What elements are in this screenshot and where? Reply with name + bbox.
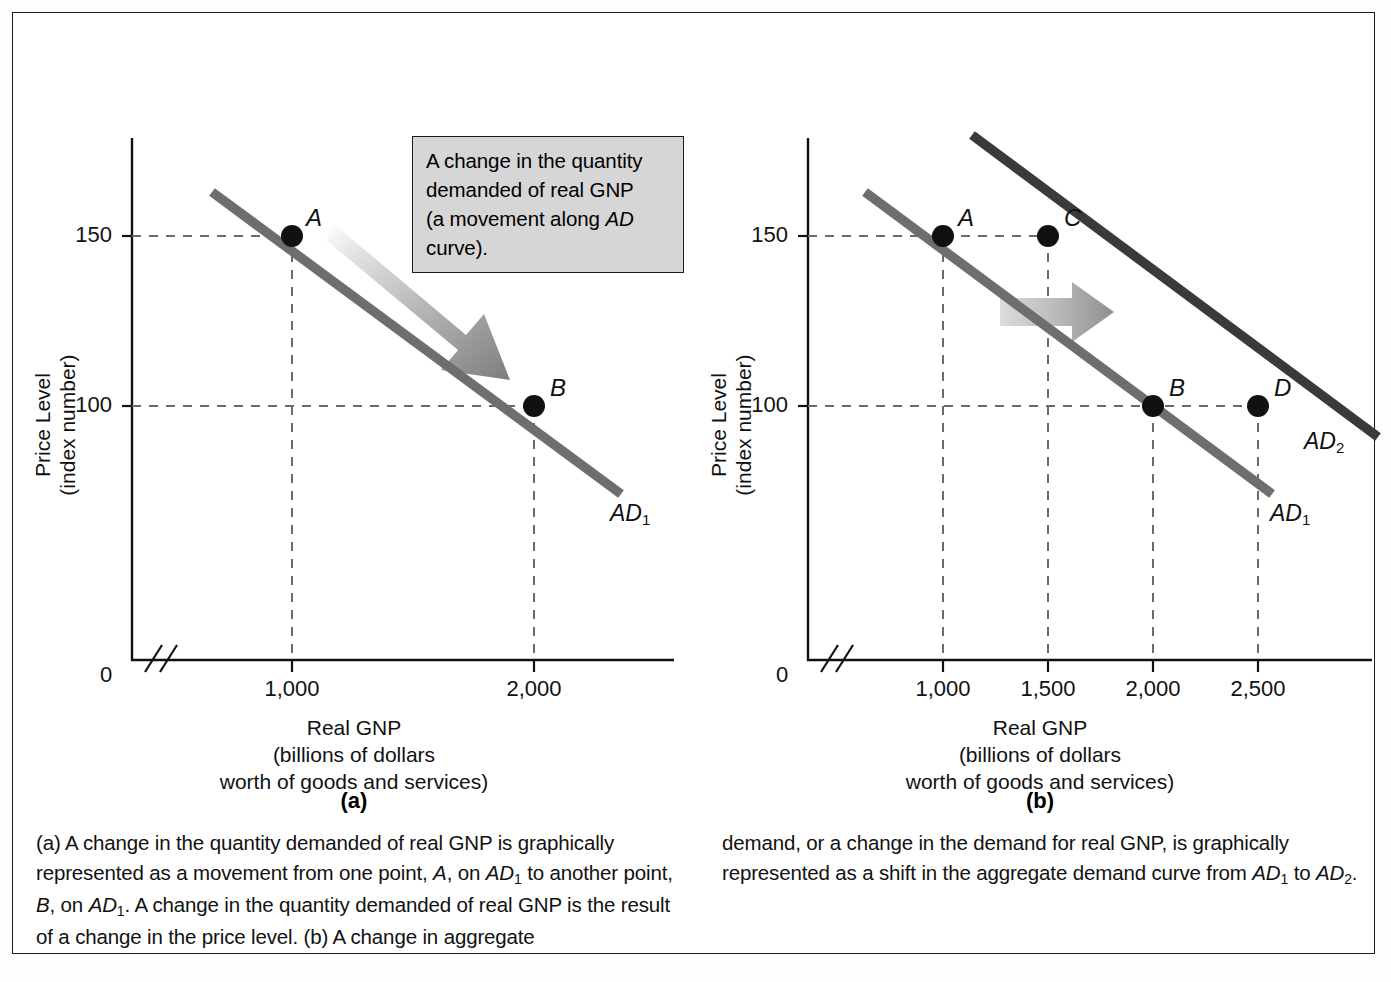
panel-b-letter: (b) bbox=[730, 788, 1350, 814]
panel-b-origin-label: 0 bbox=[776, 662, 788, 688]
panel-b-curve-ad1 bbox=[865, 192, 1272, 494]
figure-root: 150 100 0 1,000 2,000 Price Level (index… bbox=[0, 0, 1391, 982]
caption-b-em2: AD bbox=[1316, 861, 1344, 884]
panel-b-curve-label-ad2-sub: 2 bbox=[1336, 439, 1344, 456]
panel-b-point-label-B: B bbox=[1169, 374, 1185, 402]
panel-a-callout: A change in the quantity demanded of rea… bbox=[412, 136, 684, 273]
caption-b-em1: AD bbox=[1252, 861, 1280, 884]
panel-b: 150 100 0 1,000 1,500 2,000 2,500 Price … bbox=[700, 0, 1376, 810]
panel-a-y-title-line1: Price Level bbox=[31, 373, 54, 477]
panel-b-point-B bbox=[1142, 395, 1164, 417]
panel-a-callout-line4: curve). bbox=[426, 236, 488, 259]
panel-a-xlabel-2000: 2,000 bbox=[474, 676, 594, 702]
panel-b-curve-label-ad1: AD1 bbox=[1270, 500, 1310, 527]
caption-b-sub2: 2 bbox=[1344, 871, 1352, 887]
caption-a-s2: , on bbox=[447, 861, 486, 884]
panel-b-ylabel-150: 150 bbox=[726, 222, 788, 248]
panel-a-callout-line1: A change in the quantity bbox=[426, 149, 642, 172]
panel-a-guides bbox=[132, 236, 534, 660]
panel-a-point-B bbox=[523, 395, 545, 417]
caption-a-s4: , on bbox=[50, 893, 89, 916]
caption-a-s5: . A change in the quantity demanded of r… bbox=[36, 893, 670, 948]
panel-a-curve-label-ad1: AD1 bbox=[610, 500, 650, 527]
panel-b-xlabel-2000: 2,000 bbox=[1093, 676, 1213, 702]
panel-b-curve-label-ad1-sub: 1 bbox=[1302, 511, 1310, 528]
caption-b-s1: demand, or a change in the demand for re… bbox=[722, 831, 1289, 884]
panel-a-x-title-line1: Real GNP bbox=[307, 716, 402, 739]
panel-b-xlabel-1500: 1,500 bbox=[988, 676, 1108, 702]
panel-b-x-title-line2: (billions of dollars bbox=[959, 743, 1121, 766]
panel-b-axis-break-icon bbox=[821, 645, 853, 672]
panel-b-curve-label-ad2: AD2 bbox=[1304, 428, 1344, 455]
panel-a-point-label-A: A bbox=[306, 204, 322, 232]
panel-a-axis-break-icon bbox=[145, 645, 177, 672]
panel-b-curve-label-ad1-name: AD bbox=[1270, 500, 1302, 526]
panel-b-plot bbox=[700, 0, 1380, 700]
panel-a-xlabel-1000: 1,000 bbox=[232, 676, 352, 702]
panel-b-point-C bbox=[1037, 225, 1059, 247]
panel-b-point-D bbox=[1247, 395, 1269, 417]
caption-b-sub1: 1 bbox=[1281, 871, 1289, 887]
panel-b-x-title-line1: Real GNP bbox=[993, 716, 1088, 739]
panel-a-x-title-line2: (billions of dollars bbox=[273, 743, 435, 766]
caption-a-s3: to another point, bbox=[522, 861, 673, 884]
panel-b-y-axis-title: Price Level (index number) bbox=[706, 330, 756, 520]
panel-a-y-axis-title: Price Level (index number) bbox=[30, 330, 80, 520]
panel-b-y-title-line1: Price Level bbox=[707, 373, 730, 477]
caption-a-sub2: 1 bbox=[514, 871, 522, 887]
panel-b-xlabel-2500: 2,500 bbox=[1198, 676, 1318, 702]
panel-a-callout-line2: demanded of real GNP bbox=[426, 178, 634, 201]
caption-a-em3: B bbox=[36, 893, 50, 916]
caption-a-sub4: 1 bbox=[117, 903, 125, 919]
panel-a-point-A bbox=[281, 225, 303, 247]
panel-b-x-axis-title: Real GNP (billions of dollars worth of g… bbox=[730, 714, 1350, 795]
panel-a-curve-label-ad1-sub: 1 bbox=[642, 511, 650, 528]
panel-a: 150 100 0 1,000 2,000 Price Level (index… bbox=[14, 0, 686, 810]
panel-b-point-label-D: D bbox=[1274, 374, 1291, 402]
caption-b-s3: . bbox=[1352, 861, 1358, 884]
panel-a-plot bbox=[14, 0, 694, 700]
panel-a-callout-line3-em: AD bbox=[605, 207, 633, 230]
caption-a-em2: AD bbox=[486, 861, 514, 884]
panel-b-xlabel-1000: 1,000 bbox=[883, 676, 1003, 702]
panel-a-x-axis-title: Real GNP (billions of dollars worth of g… bbox=[54, 714, 654, 795]
caption-panel-b: demand, or a change in the demand for re… bbox=[722, 828, 1372, 890]
panel-b-point-label-C: C bbox=[1064, 204, 1081, 232]
panel-a-letter: (a) bbox=[54, 788, 654, 814]
caption-panel-a: (a) A change in the quantity demanded of… bbox=[36, 828, 676, 952]
panel-a-callout-line3-pre: (a movement along bbox=[426, 207, 605, 230]
panel-b-curve-label-ad2-name: AD bbox=[1304, 428, 1336, 454]
panel-b-point-label-A: A bbox=[958, 204, 974, 232]
panel-a-point-label-B: B bbox=[550, 374, 566, 402]
panel-a-origin-label: 0 bbox=[100, 662, 112, 688]
caption-b-s2: to bbox=[1288, 861, 1316, 884]
panel-a-y-title-line2: (index number) bbox=[56, 354, 79, 495]
caption-a-em1: A bbox=[433, 861, 447, 884]
panel-b-point-A bbox=[932, 225, 954, 247]
panel-a-ylabel-150: 150 bbox=[50, 222, 112, 248]
panel-b-y-title-line2: (index number) bbox=[732, 354, 755, 495]
caption-a-em4: AD bbox=[89, 893, 117, 916]
panel-a-curve-label-ad1-name: AD bbox=[610, 500, 642, 526]
